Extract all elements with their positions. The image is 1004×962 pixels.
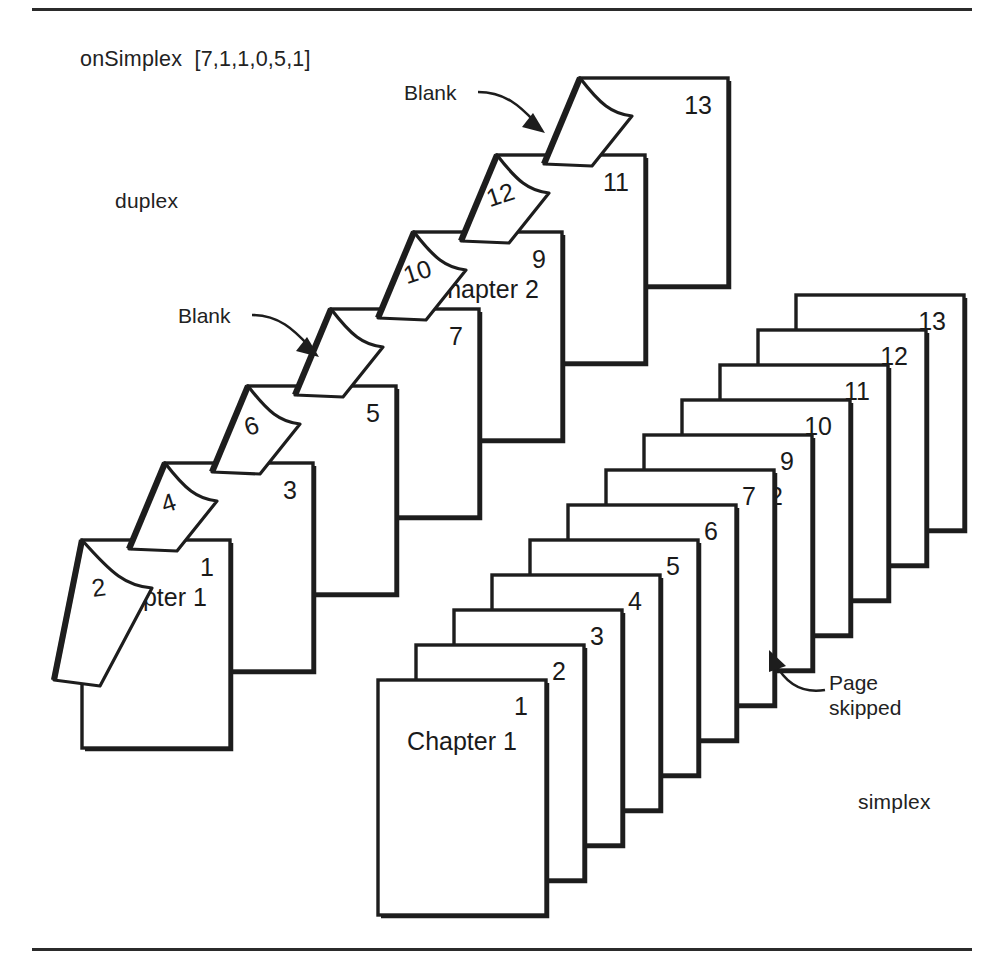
figure-canvas: onSimplex [7,1,1,0,5,1] duplex simplex B… — [0, 0, 1004, 962]
duplex-recto-number: 3 — [283, 476, 297, 504]
blank-arrow-middle — [252, 315, 319, 357]
duplex-recto-number: 1 — [200, 553, 214, 581]
duplex-recto-number: 9 — [532, 245, 546, 273]
simplex-sheet: 1Chapter 1 — [378, 680, 546, 915]
duplex-recto-number: 5 — [366, 399, 380, 427]
duplex-recto-number: 7 — [449, 322, 463, 350]
simplex-page-number: 3 — [590, 622, 604, 650]
simplex-page-number: 1 — [514, 692, 528, 720]
blank-arrow-top — [478, 92, 545, 133]
simplex-page-number: 9 — [780, 447, 794, 475]
diagram-artwork: 131211109Chapter 27654321Chapter 1 13119… — [0, 0, 1004, 962]
duplex-recto-number: 13 — [684, 91, 712, 119]
simplex-page-number: 2 — [552, 657, 566, 685]
simplex-page-number: 5 — [666, 552, 680, 580]
simplex-chapter-label: Chapter 1 — [407, 727, 517, 755]
simplex-page-number: 6 — [704, 517, 718, 545]
simplex-page-number: 4 — [628, 587, 642, 615]
simplex-page-number: 7 — [742, 482, 756, 510]
duplex-recto-number: 11 — [603, 168, 629, 196]
